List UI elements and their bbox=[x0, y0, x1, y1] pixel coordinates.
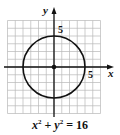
circle-graph: y x 5 5 bbox=[0, 0, 120, 135]
equation-plus: + bbox=[44, 118, 51, 132]
equation-exp-x: 2 bbox=[38, 118, 42, 126]
y-tick-label: 5 bbox=[58, 24, 63, 35]
x-tick-label: 5 bbox=[88, 69, 93, 80]
equation-rhs: = 16 bbox=[66, 118, 88, 132]
center-point bbox=[52, 65, 57, 70]
equation-caption: x2 + y2 = 16 bbox=[0, 118, 120, 133]
y-axis-label: y bbox=[41, 4, 48, 16]
y-axis-arrow-icon bbox=[52, 7, 57, 14]
x-axis-label: x bbox=[107, 67, 114, 79]
equation-exp-y: 2 bbox=[60, 118, 64, 126]
